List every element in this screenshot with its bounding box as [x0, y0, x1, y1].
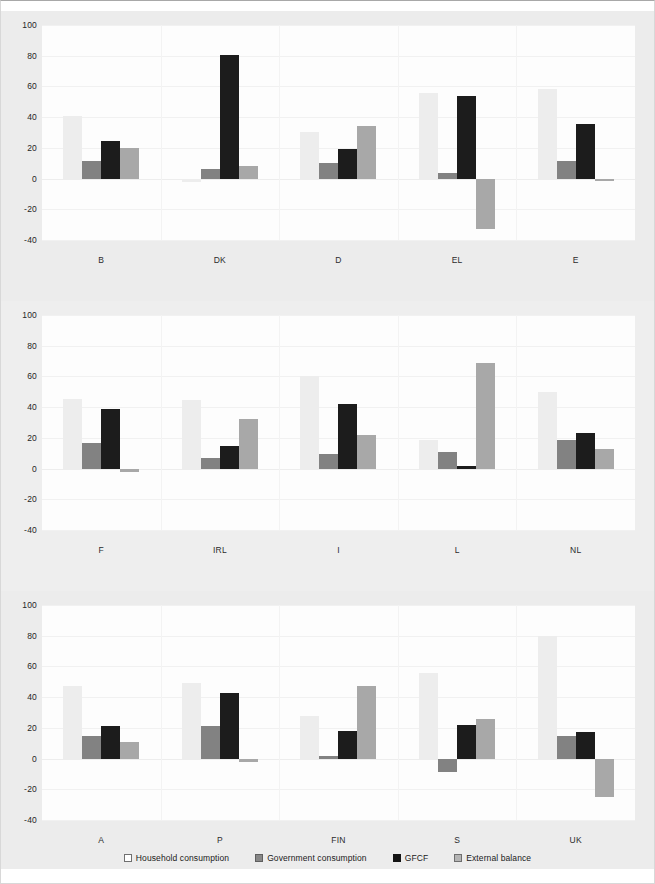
- x-axis-tick-label: A: [98, 835, 104, 845]
- y-axis-tick-label: -20: [24, 204, 37, 214]
- bar: [576, 732, 595, 759]
- y-axis-tick-label: 0: [32, 754, 37, 764]
- bar: [595, 179, 614, 181]
- bar: [300, 716, 319, 758]
- chart-panel-2: 100806040200-20-40 FIRLILNL: [1, 301, 654, 591]
- gridline: [42, 240, 635, 241]
- bar: [220, 446, 239, 468]
- chart-panel-3: 100806040200-20-40 APFINSUK: [1, 591, 654, 881]
- bar: [82, 161, 101, 179]
- legend-swatch-external: [454, 854, 462, 862]
- y-axis-panel-3: 100806040200-20-40: [1, 605, 37, 820]
- legend-swatch-household: [124, 854, 132, 862]
- x-axis-tick-label: NL: [570, 545, 581, 555]
- bar-group: [161, 25, 280, 240]
- plot-area-panel-2: [42, 315, 635, 530]
- bar: [357, 435, 376, 469]
- bar: [239, 759, 258, 763]
- y-axis-tick-label: 100: [22, 600, 37, 610]
- bar: [457, 725, 476, 759]
- bar: [576, 433, 595, 468]
- y-axis-tick-label: 80: [27, 631, 37, 641]
- bar: [201, 169, 220, 179]
- bar: [457, 96, 476, 178]
- bar: [438, 759, 457, 773]
- bar-group: [279, 25, 398, 240]
- y-axis-tick-label: 0: [32, 174, 37, 184]
- bar: [63, 399, 82, 468]
- bar: [120, 742, 139, 758]
- bar: [438, 452, 457, 468]
- bar: [357, 126, 376, 179]
- legend-label: External balance: [466, 854, 531, 863]
- bar-group: [516, 315, 635, 530]
- bar-group: [161, 605, 280, 820]
- x-axis-tick-label: E: [573, 255, 579, 265]
- gridline: [42, 530, 635, 531]
- x-axis-tick-label: P: [217, 835, 223, 845]
- y-axis-tick-label: 40: [27, 402, 37, 412]
- y-axis-tick-label: 20: [27, 433, 37, 443]
- legend-item: GFCF: [393, 854, 429, 863]
- bar: [357, 686, 376, 759]
- bar: [595, 759, 614, 797]
- x-axis-panel-2: FIRLILNL: [42, 539, 635, 565]
- x-axis-tick-label: FIN: [331, 835, 345, 845]
- bar: [300, 376, 319, 469]
- legend-swatch-government: [255, 854, 263, 862]
- bar: [63, 116, 82, 179]
- y-axis-tick-label: 20: [27, 143, 37, 153]
- bar: [557, 736, 576, 758]
- x-axis-tick-label: EL: [452, 255, 463, 265]
- bar-group: [398, 605, 517, 820]
- y-axis-tick-label: 40: [27, 692, 37, 702]
- bar: [538, 392, 557, 469]
- bar: [201, 726, 220, 758]
- bar: [438, 173, 457, 178]
- y-axis-tick-label: -40: [24, 815, 37, 825]
- x-axis-tick-label: UK: [570, 835, 582, 845]
- y-axis-tick-label: -40: [24, 525, 37, 535]
- bar: [239, 166, 258, 178]
- legend-item: External balance: [454, 854, 531, 863]
- bar: [101, 409, 120, 469]
- bar: [595, 449, 614, 468]
- y-axis-tick-label: 80: [27, 341, 37, 351]
- y-axis-tick-label: 100: [22, 20, 37, 30]
- chart-panels: 100806040200-20-40 BDKDELE 100806040200-…: [1, 11, 654, 881]
- x-axis-panel-1: BDKDELE: [42, 249, 635, 275]
- plot-area-panel-1: [42, 25, 635, 240]
- chart-figure: 100806040200-20-40 BDKDELE 100806040200-…: [0, 0, 655, 884]
- plot-area-panel-3: [42, 605, 635, 820]
- bar: [120, 469, 139, 473]
- chart-panel-1: 100806040200-20-40 BDKDELE: [1, 11, 654, 301]
- bar: [220, 55, 239, 179]
- bar: [476, 363, 495, 469]
- bar-group: [161, 315, 280, 530]
- x-axis-tick-label: S: [454, 835, 460, 845]
- bar-group: [516, 25, 635, 240]
- y-axis-tick-label: 80: [27, 51, 37, 61]
- chart-legend: Household consumptionGovernment consumpt…: [1, 847, 654, 869]
- legend-label: Government consumption: [267, 854, 367, 863]
- x-axis-tick-label: L: [455, 545, 460, 555]
- bar: [557, 440, 576, 468]
- bar: [239, 419, 258, 468]
- bar: [319, 756, 338, 759]
- bar: [476, 179, 495, 230]
- bar-group: [516, 605, 635, 820]
- y-axis-tick-label: 20: [27, 723, 37, 733]
- y-axis-tick-label: 40: [27, 112, 37, 122]
- bar: [319, 454, 338, 469]
- bar: [338, 731, 357, 759]
- bar-group: [42, 315, 161, 530]
- bar: [120, 148, 139, 179]
- x-axis-tick-label: F: [99, 545, 104, 555]
- bar: [476, 719, 495, 758]
- legend-label: Household consumption: [136, 854, 229, 863]
- y-axis-panel-1: 100806040200-20-40: [1, 25, 37, 240]
- bar-group: [398, 25, 517, 240]
- bar: [538, 636, 557, 759]
- bar: [338, 149, 357, 178]
- y-axis-tick-label: 60: [27, 661, 37, 671]
